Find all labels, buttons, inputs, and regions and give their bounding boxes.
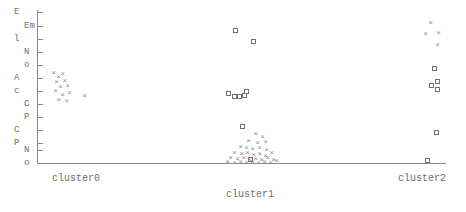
y-axis-tick-label: N bbox=[24, 146, 29, 155]
data-point-square bbox=[226, 91, 231, 96]
y-axis-tick-label: Em bbox=[24, 22, 35, 31]
y-axis-tick bbox=[38, 117, 43, 118]
data-point-cross bbox=[435, 29, 442, 36]
data-point-square bbox=[435, 87, 440, 92]
data-point-square bbox=[434, 130, 439, 135]
y-axis-tick bbox=[38, 52, 43, 53]
plot-area: EEmlNoAcCPCPNo cluster0cluster1cluster2 bbox=[0, 0, 466, 212]
y-axis-tick bbox=[38, 65, 43, 66]
data-point-square bbox=[432, 66, 437, 71]
x-axis-tick-label: cluster1 bbox=[226, 190, 274, 200]
data-point-square bbox=[233, 28, 238, 33]
y-axis-tick-label: A bbox=[14, 74, 19, 83]
y-axis-tick bbox=[38, 78, 43, 79]
y-axis-tick bbox=[38, 26, 43, 27]
data-point-cross bbox=[427, 19, 434, 26]
data-point-square bbox=[435, 79, 440, 84]
y-axis-tick bbox=[38, 130, 43, 131]
scatter-plot-figure: EEmlNoAcCPCPNo cluster0cluster1cluster2 bbox=[0, 0, 466, 212]
data-point-cross bbox=[66, 89, 73, 96]
y-axis-tick bbox=[38, 150, 43, 151]
data-point-cross bbox=[52, 87, 59, 94]
y-axis-tick-label: o bbox=[24, 61, 29, 70]
y-axis-tick-label: c bbox=[14, 87, 19, 96]
y-axis-tick-label: C bbox=[14, 126, 19, 135]
data-point-square bbox=[425, 158, 430, 163]
data-point-cross bbox=[422, 30, 429, 37]
y-axis-tick-label: E bbox=[14, 8, 19, 17]
y-axis-tick bbox=[38, 143, 43, 144]
data-point-cross bbox=[55, 96, 62, 103]
data-point-square bbox=[251, 39, 256, 44]
data-point-cross bbox=[262, 138, 269, 145]
data-point-square bbox=[240, 124, 245, 129]
y-axis-tick-label: P bbox=[14, 139, 19, 148]
y-axis-tick bbox=[38, 104, 43, 105]
data-point-cross bbox=[81, 92, 88, 99]
data-point-cross bbox=[224, 158, 231, 165]
y-axis-tick-label: C bbox=[24, 100, 29, 109]
y-axis-tick bbox=[38, 39, 43, 40]
data-point-cross bbox=[252, 130, 259, 137]
y-axis-tick bbox=[38, 91, 43, 92]
y-axis-tick-label: l bbox=[14, 35, 19, 44]
x-axis-tick-label: cluster2 bbox=[398, 174, 446, 184]
y-axis-tick-label: N bbox=[24, 48, 29, 57]
data-point-cross bbox=[273, 157, 280, 164]
y-axis-tick-label: o bbox=[24, 159, 29, 168]
data-point-cross bbox=[434, 41, 441, 48]
y-axis-tick-label: P bbox=[24, 113, 29, 122]
y-axis-tick bbox=[38, 163, 43, 164]
y-axis-tick bbox=[38, 12, 43, 13]
data-point-square bbox=[244, 89, 249, 94]
data-point-square bbox=[429, 83, 434, 88]
x-axis-tick-label: cluster0 bbox=[52, 174, 100, 184]
y-axis-line bbox=[37, 10, 38, 163]
data-point-cross bbox=[63, 97, 70, 104]
